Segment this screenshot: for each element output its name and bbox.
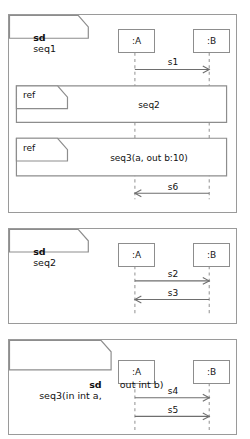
- message-text-s1: s1: [168, 57, 178, 67]
- sequence-diagram-canvas: sd seq1 :A :B s1 ref seq2 ref seq3(a, ou…: [0, 0, 250, 439]
- lifeline-label-b: :B: [207, 367, 216, 377]
- message-label-s1: s1: [168, 57, 178, 67]
- lifeline-label-a: :A: [132, 250, 141, 260]
- lifeline-head-b[interactable]: :B: [193, 360, 230, 384]
- ref-keyword-2: ref: [23, 143, 35, 153]
- frame-name-tab: [9, 15, 88, 38]
- ref-name-text-1: seq2: [138, 100, 160, 110]
- ref-keyword-text-2: ref: [23, 143, 35, 153]
- message-label-s4: s4: [168, 386, 178, 396]
- lifeline-label-a: :A: [132, 367, 141, 377]
- lifeline-label-b: :B: [207, 250, 216, 260]
- lifeline-head-b[interactable]: :B: [193, 29, 230, 53]
- ref-name-2[interactable]: seq3(a, out b:10): [110, 153, 188, 163]
- diagram-frame-seq2: sd seq2 :A :B s2 s3: [8, 228, 237, 324]
- ref-keyword-1: ref: [23, 90, 35, 100]
- lifeline-head-a[interactable]: :A: [118, 29, 155, 53]
- message-text-s4: s4: [168, 386, 178, 396]
- lifeline-label-a: :A: [132, 36, 141, 46]
- lifeline-head-a[interactable]: :A: [118, 360, 155, 384]
- lifeline-head-b[interactable]: :B: [193, 243, 230, 267]
- frame-graphics-seq3: [9, 340, 236, 434]
- frame-name-tab: [9, 229, 88, 252]
- message-label-s3: s3: [168, 288, 178, 298]
- message-text-s6: s6: [168, 182, 178, 192]
- ref-name-1[interactable]: seq2: [138, 100, 160, 110]
- ref-name-text-2: seq3(a, out b:10): [110, 153, 188, 163]
- message-label-s5: s5: [168, 405, 178, 415]
- message-text-s3: s3: [168, 288, 178, 298]
- diagram-frame-seq3: sd seq3(in int a, out int b) :A :B s4 s5: [8, 339, 237, 435]
- frame-name-tab: [9, 340, 111, 369]
- message-text-s2: s2: [168, 269, 178, 279]
- ref-keyword-text-1: ref: [23, 90, 35, 100]
- message-label-s2: s2: [168, 269, 178, 279]
- message-text-s5: s5: [168, 405, 178, 415]
- lifeline-label-b: :B: [207, 36, 216, 46]
- message-label-s6: s6: [168, 182, 178, 192]
- lifeline-head-a[interactable]: :A: [118, 243, 155, 267]
- diagram-frame-seq1: sd seq1 :A :B s1 ref seq2 ref seq3(a, ou…: [8, 14, 237, 213]
